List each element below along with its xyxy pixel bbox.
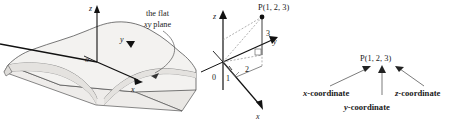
projection-origin-to-foot — [223, 55, 262, 62]
coord-x-axis-negative — [213, 51, 223, 62]
figure-svg: z y x o the flat xy plane z y — [0, 0, 462, 122]
surface-x-axis-label: x — [130, 85, 135, 94]
origin-label: 0 — [212, 73, 216, 82]
coord-z-axis-arrowhead — [219, 10, 227, 19]
right-angle-mark-foot — [255, 49, 261, 55]
surface-z-axis-label: z — [88, 4, 93, 13]
coord-y-axis-label: y — [272, 37, 277, 46]
x-callout-arrowhead — [362, 66, 371, 72]
coord-x-axis-label: x — [255, 112, 260, 121]
x-callout-leader — [330, 69, 366, 86]
projection-z-upper-guide — [223, 17, 262, 40]
z-coordinate-callout: z-coordinate — [394, 88, 441, 98]
surface-y-axis-label: y — [119, 35, 124, 44]
surface-panel: z y x o the flat xy plane — [0, 4, 196, 111]
surface-z-axis-arrowhead — [94, 5, 100, 13]
figure-root: z y x o the flat xy plane z y — [0, 0, 462, 122]
z-coordinate-callout-text: -coordinate — [398, 88, 440, 98]
coord-y-axis-negative — [201, 62, 223, 72]
coord-y-axis — [223, 40, 272, 62]
y-coordinate-callout-text: -coordinate — [348, 102, 390, 112]
x-coordinate-callout: x-coordinate — [302, 88, 349, 98]
callout-point-label: P(1, 2, 3) — [360, 54, 391, 63]
callout-panel: P(1, 2, 3) x-coordinate y-coordinate z-c… — [302, 54, 441, 112]
point-p-label: P(1, 2, 3) — [258, 3, 289, 12]
point-p-marker — [260, 15, 265, 20]
z-callout-leader — [400, 69, 424, 86]
flat-plane-annotation-line1: the flat — [146, 9, 170, 18]
coord-z-axis-label: z — [212, 12, 217, 21]
flat-plane-annotation-plane: plane — [151, 20, 171, 29]
coordinate-panel: z y x 3 0 1 2 P(1, 2, — [201, 3, 289, 121]
x-coordinate-callout-text: -coordinate — [307, 88, 349, 98]
y-value-label: 2 — [245, 65, 249, 74]
base-y-leg — [236, 66, 262, 77]
surface-origin-label: o — [85, 55, 89, 64]
z-value-label: 3 — [266, 29, 270, 38]
flat-plane-annotation-line2: xy plane — [143, 20, 171, 29]
y-callout-arrowhead — [378, 65, 386, 73]
x-value-label: 1 — [226, 74, 230, 83]
y-coordinate-callout: y-coordinate — [343, 102, 390, 112]
